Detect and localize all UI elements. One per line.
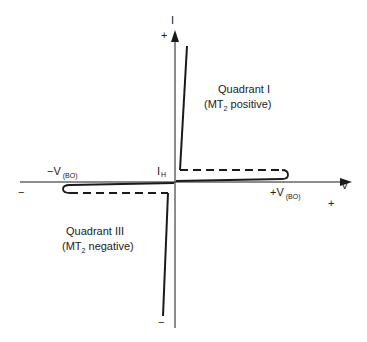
quadrant-3-title: Quadrant III [66, 225, 124, 237]
quadrant-1-desc: (MT2 positive) [204, 98, 271, 112]
y-axis-arrow-icon [171, 30, 179, 42]
y-axis-label: I [171, 14, 174, 26]
y-minus-sign: − [158, 316, 164, 328]
q1-on-state-line [180, 46, 187, 170]
y-plus-sign: + [161, 29, 167, 41]
x-axis-label: V [341, 179, 349, 191]
holding-current-label: IH [157, 165, 166, 178]
iv-characteristic-diagram: I + − V + − −V(BO) +V(BO) IH Quadrant I … [0, 0, 367, 342]
quadrant-3-desc: (MT2 negative) [62, 240, 134, 254]
pos-breakover-label: +V(BO) [270, 186, 301, 201]
neg-breakover-label: −V(BO) [47, 165, 78, 180]
x-plus-sign: + [328, 197, 334, 209]
x-minus-sign: − [18, 186, 24, 198]
q3-breakover-loop [63, 183, 174, 193]
q3-on-state-line [163, 193, 168, 316]
q1-breakover-loop [176, 170, 288, 181]
quadrant-1-title: Quadrant I [218, 83, 270, 95]
